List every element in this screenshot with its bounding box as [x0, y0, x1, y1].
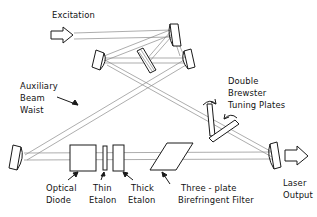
- label-optical-diode-line1: Optical: [46, 183, 77, 193]
- label-double-brewster-line2: Brewster: [228, 88, 267, 98]
- pump-beam-lower: [74, 37, 171, 39]
- label-birefringent-filter-line1: Three - plate: [180, 183, 237, 193]
- label-thin-etalon-line1: Thin: [92, 183, 112, 193]
- label-laser-output-line1: Laser: [283, 178, 307, 188]
- output-arrow: [285, 146, 308, 165]
- label-auxiliary-beam-waist-line3: Waist: [20, 105, 44, 115]
- pump-beam-fold-a: [146, 31, 171, 60]
- cavity-upper-left-a: [104, 30, 170, 56]
- label-excitation: Excitation: [52, 10, 95, 20]
- label-auxiliary-beam-waist-line2: Beam: [20, 93, 45, 103]
- mirror-mid-left: [92, 50, 105, 70]
- brewster-plate-vertical: [207, 104, 215, 136]
- label-laser-output-line2: Output: [283, 190, 314, 200]
- birefringent-filter: [150, 143, 193, 170]
- excitation-arrow: [51, 27, 73, 43]
- cavity-bottom-a: [24, 152, 272, 153]
- pump-beam-upper: [74, 30, 171, 33]
- mirror-bottom-left: [9, 145, 22, 170]
- label-thick-etalon-line2: Etalon: [128, 195, 155, 205]
- label-double-brewster-line1: Double: [228, 76, 259, 86]
- label-optical-diode-line2: Diode: [46, 195, 71, 205]
- label-thin-etalon-line2: Etalon: [89, 195, 116, 205]
- rotation-arrow-plate-2: [224, 114, 237, 119]
- diagram-canvas: Excitation Auxiliary Beam Waist Double B…: [0, 0, 317, 217]
- label-birefringent-filter-line2: Birefringent Filter: [178, 195, 254, 205]
- thin-etalon: [103, 146, 107, 170]
- optical-diode: [70, 145, 96, 171]
- cavity-bottom-b: [24, 159, 272, 160]
- cavity-diag-right-down: [25, 60, 184, 155]
- label-thick-etalon-line1: Thick: [130, 183, 154, 193]
- thick-etalon: [113, 145, 124, 171]
- label-double-brewster-line3: Tuning Plates: [227, 100, 285, 110]
- mirror-output-coupler: [269, 142, 281, 169]
- label-auxiliary-beam-waist-line1: Auxiliary: [20, 81, 58, 91]
